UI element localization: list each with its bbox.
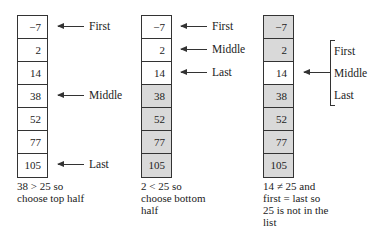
left-arrow-icon	[181, 72, 207, 73]
left-arrow-icon	[304, 72, 330, 73]
pointer-first: First	[181, 19, 233, 33]
caption-line: 25 is not in the	[263, 204, 373, 216]
caption-line: half	[141, 204, 251, 216]
step-caption: 2 < 25 so choose bottom half	[141, 180, 251, 216]
array-cell-excluded: 2	[264, 39, 293, 62]
caption-line: choose bottom	[141, 192, 251, 204]
caption-line: 2 < 25 so	[141, 180, 251, 192]
array-cell: 14	[264, 62, 293, 85]
pointer-label: First	[212, 19, 233, 33]
array-cell-excluded: 105	[142, 154, 171, 177]
array-cell-excluded: 38	[264, 85, 293, 108]
bracket-label-first: First	[334, 40, 367, 62]
step-caption: 14 ≠ 25 and first = last so 25 is not in…	[263, 180, 373, 228]
array-cell-excluded: 77	[142, 131, 171, 154]
left-arrow-icon	[181, 49, 207, 50]
caption-line: first = last so	[263, 192, 373, 204]
bracket-label-last: Last	[334, 84, 367, 106]
array-cell-excluded: −7	[264, 16, 293, 39]
caption-line: list	[263, 216, 373, 228]
array-cell-excluded: 52	[142, 108, 171, 131]
pointer-last: Last	[181, 65, 232, 79]
array-box: −7 2 14 38 52 77 105	[141, 15, 172, 178]
pointer-label: Last	[212, 65, 232, 79]
array-cell: 2	[142, 39, 171, 62]
array-cell: −7	[142, 16, 171, 39]
pointer-label: Middle	[212, 42, 245, 56]
step-3: −7 2 14 38 52 77 105 First Middle Last 1…	[0, 0, 125, 238]
array-box: −7 2 14 38 52 77 105	[263, 15, 294, 178]
left-arrow-icon	[181, 26, 207, 27]
array-cell-excluded: 52	[264, 108, 293, 131]
array-cell-excluded: 105	[264, 154, 293, 177]
bracket-label-middle: Middle	[334, 62, 367, 84]
bracket-labels: First Middle Last	[334, 40, 367, 106]
array-cell-excluded: 38	[142, 85, 171, 108]
pointer-middle: Middle	[181, 42, 245, 56]
caption-line: 14 ≠ 25 and	[263, 180, 373, 192]
array-cell-excluded: 77	[264, 131, 293, 154]
array-cell: 14	[142, 62, 171, 85]
